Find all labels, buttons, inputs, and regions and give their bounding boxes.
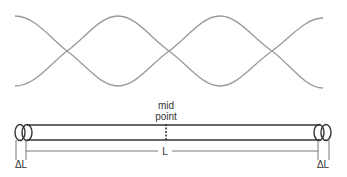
wave-envelope xyxy=(15,16,323,88)
dimension-lines xyxy=(16,140,329,160)
tube xyxy=(15,124,331,141)
wave-curve-upper xyxy=(15,16,323,51)
length-label: L xyxy=(162,146,168,157)
end-correction-right-label: ΔL xyxy=(317,159,330,170)
midpoint-label-line1: mid xyxy=(158,100,174,111)
left-end-ring-inner xyxy=(22,125,32,141)
end-correction-left-label: ΔL xyxy=(15,159,28,170)
standing-wave-diagram: mid point L ΔL ΔL xyxy=(0,0,347,177)
right-end-ring-outer xyxy=(321,125,331,141)
wave-curve-lower xyxy=(15,51,323,88)
midpoint-label-line2: point xyxy=(155,111,177,122)
